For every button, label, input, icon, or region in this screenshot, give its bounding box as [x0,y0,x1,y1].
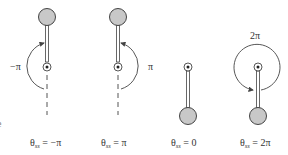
pendulum-zero [180,63,197,125]
theta-subscript: ss [245,142,250,149]
rotation-arrow-cw [121,43,138,89]
angle-label-neg-pi: −π [10,61,21,72]
theta-value: = π [113,137,126,148]
theta-subscript: ss [176,142,181,149]
pendulum-two-pi [234,44,280,124]
angle-label-two-pi: 2π [250,30,260,41]
pendulum-bob [250,108,267,125]
theta-label-pos-pi: θss = π [101,137,127,149]
pendulum-diagram [0,0,288,155]
theta-label-zero: θss = 0 [171,137,197,149]
theta-value: = −π [42,137,61,148]
theta-label-two-pi: θss = 2π [240,137,271,149]
pendulum-rod [117,25,120,62]
pendulum-bob [39,9,56,26]
theta-subscript: ss [35,142,40,149]
pendulum-bob [180,108,197,125]
theta-value: = 2π [252,137,270,148]
rotation-arrow-ccw [27,43,44,89]
theta-subscript: ss [106,142,111,149]
angle-label-pos-pi: π [148,61,153,72]
pendulum-bob [110,9,127,26]
pendulum-rod [46,25,49,62]
pendulum-neg-pi [27,9,56,116]
pendulum-rod [187,71,190,108]
theta-value: = 0 [183,137,196,148]
pendulum-pos-pi [110,9,139,116]
edge-text-fragment: e [0,118,1,129]
pendulum-rod [257,71,260,108]
theta-label-neg-pi: θss = −π [30,137,61,149]
